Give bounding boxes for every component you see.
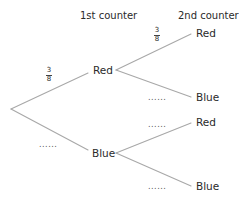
prob-denominator: 8 [155,36,159,43]
prob-first-blue-blank: ...... [39,141,57,149]
leaf-red-blue: Blue [196,91,219,103]
probability-tree-diagram: 1st counter 2nd counter Red Blue Red Blu… [0,0,239,199]
node-first-red: Red [93,64,113,76]
header-1st-counter: 1st counter [80,10,137,22]
prob-first-red: 3 8 [46,67,52,83]
prob-red-red: 3 8 [154,27,160,43]
leaf-blue-red: Red [196,116,216,128]
node-first-blue: Blue [92,147,115,159]
prob-denominator: 8 [47,76,51,83]
header-2nd-counter: 2nd counter [178,10,239,22]
prob-blue-red-blank: ...... [148,121,166,129]
prob-numerator: 3 [47,67,51,74]
prob-numerator: 3 [155,27,159,34]
prob-blue-blue-blank: ...... [148,183,166,191]
leaf-red-red: Red [196,27,216,39]
leaf-blue-blue: Blue [196,180,219,192]
prob-red-blue-blank: ...... [148,94,166,102]
